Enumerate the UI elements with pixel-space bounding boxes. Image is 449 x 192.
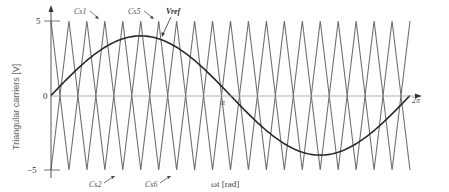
y-tick-label-m5: −5 (27, 165, 37, 175)
y-axis-arrow-icon (49, 5, 54, 12)
arrow-cs2-icon (104, 177, 113, 183)
arrowhead-cs6-icon (167, 176, 171, 179)
annotation-cs2: Cs2 (89, 180, 101, 189)
arrow-cs6-icon (160, 177, 169, 183)
x-tick-label-pi: π (221, 98, 226, 107)
chart: 5 0 −5 π 2π Triangular carriers [V] ωt [… (0, 0, 449, 192)
arrowhead-cs2-icon (111, 176, 115, 179)
annotation-cs5: Cs5 (128, 7, 140, 16)
annotation-cs6: Cs6 (145, 180, 157, 189)
arrow-vref-icon (163, 17, 171, 34)
x-axis-label: ωt [rad] (211, 179, 239, 189)
y-tick-label-5: 5 (36, 16, 41, 26)
arrowhead-vref-icon (162, 32, 166, 37)
annotation-vref: Vref (166, 7, 182, 16)
x-tick-label-2pi: 2π (412, 96, 421, 105)
y-tick-label-0: 0 (43, 91, 48, 101)
annotation-cs1: Cs1 (74, 7, 86, 16)
y-axis-label: Triangular carriers [V] (11, 64, 21, 150)
vref-sine-curve (51, 36, 410, 155)
